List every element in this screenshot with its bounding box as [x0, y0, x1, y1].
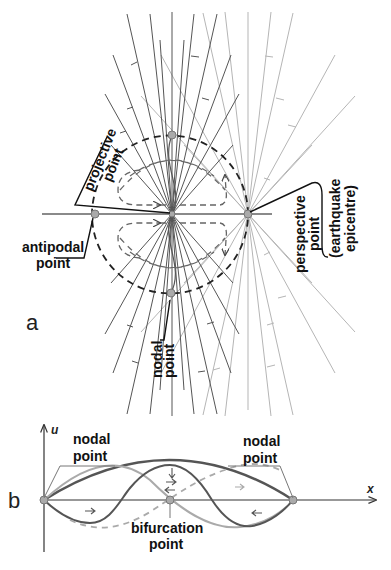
antipodal-point-label-line2: point	[36, 255, 71, 271]
left-nodal-point-label-line2: point	[73, 448, 108, 464]
nodal-center-marker	[169, 211, 175, 217]
top-point-marker	[168, 131, 176, 139]
u-axis-label: u	[51, 423, 59, 437]
x-axis-label: x	[366, 482, 375, 496]
figure: projective point antipodal point perspec…	[0, 0, 391, 570]
perspective-point-label-line2: point	[306, 216, 322, 251]
bifurcation-point-marker	[166, 496, 174, 504]
earthquake-label-line1: (earthquake	[327, 178, 343, 258]
right-nodal-point-label-line1: nodal	[243, 433, 280, 449]
bifurcation-point-label-line2: point	[149, 536, 184, 552]
earthquake-epicentre-label-line2: epicentre)	[342, 185, 358, 252]
light-arrow	[235, 484, 244, 490]
panel-a: projective point antipodal point perspec…	[22, 12, 358, 416]
left-nodal-point-label-line1: nodal	[73, 431, 110, 447]
panel-b: u x nodal point nodal	[8, 423, 376, 552]
bifurcation-point-label-line1: bifurcation	[131, 520, 203, 536]
bottom-point-marker	[167, 289, 175, 297]
panel-a-label: a	[26, 310, 39, 335]
antipodal-point-label-line1: antipodal	[22, 239, 84, 255]
antipodal-point-marker	[91, 210, 99, 218]
direction-arrows	[85, 468, 262, 516]
right-nodal-point-label-line2: point	[243, 450, 278, 466]
panel-b-label: b	[8, 488, 20, 513]
nodal-point-label-line2: point	[161, 343, 177, 378]
dashed-wave-curve	[70, 464, 280, 528]
